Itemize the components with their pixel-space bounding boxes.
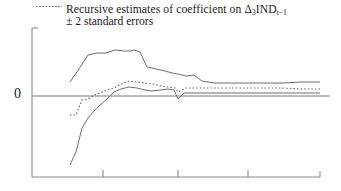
chart-plot-area (0, 0, 341, 191)
x-axis-ticks (103, 170, 248, 177)
y-axis-zero-label: 0 (14, 87, 21, 101)
recursive-estimates-figure: 0 Recursive estimates of coefficient on … (0, 0, 341, 191)
series-upper-band (70, 50, 320, 83)
series-lower-band (70, 87, 320, 165)
